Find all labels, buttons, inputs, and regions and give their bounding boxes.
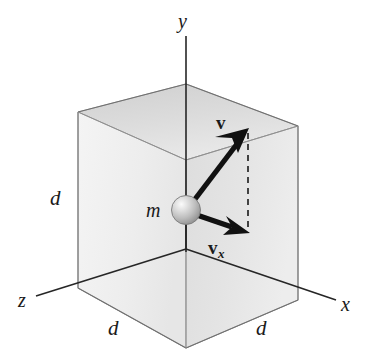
vector-v-symbol: v: [216, 112, 226, 133]
vector-vx-subscript: x: [218, 246, 225, 261]
vector-vx-symbol: v: [208, 237, 218, 258]
axis-z-label: z: [18, 290, 26, 310]
axis-y-label: y: [178, 11, 187, 31]
cube-face-right: [186, 126, 298, 348]
cube-dimension-bottom-right: d: [256, 318, 267, 339]
particle-mass-label: m: [146, 200, 160, 220]
particle-sphere: [172, 196, 201, 225]
axis-x-label: x: [341, 294, 350, 314]
cube-diagram-svg: [0, 0, 365, 358]
cube-dimension-left: d: [50, 188, 61, 209]
vector-v-label: v: [216, 113, 226, 132]
physics-figure: y x z d d d m v vx: [0, 0, 365, 358]
cube-dimension-bottom-left: d: [108, 318, 119, 339]
vector-vx-label: vx: [208, 238, 225, 260]
